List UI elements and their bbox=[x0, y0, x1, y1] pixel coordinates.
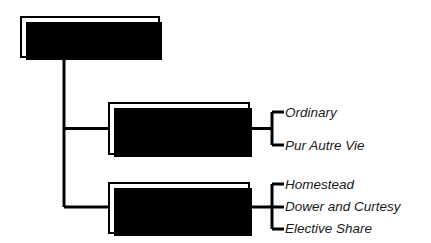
life-estates-hierarchy-diagram: Life Estates Conventional Legal Ordinary… bbox=[0, 0, 431, 243]
node-legal: Legal bbox=[108, 182, 250, 234]
node-conventional: Conventional bbox=[108, 102, 250, 155]
node-life-estates: Life Estates bbox=[20, 16, 160, 58]
leaf-label-ordinary: Ordinary bbox=[285, 106, 337, 120]
leaf-label-elective-share: Elective Share bbox=[285, 222, 372, 236]
node-conventional-label: Conventional bbox=[130, 120, 227, 137]
node-life-estates-label: Life Estates bbox=[47, 29, 134, 46]
node-legal-label: Legal bbox=[159, 200, 199, 217]
leaf-label-homestead: Homestead bbox=[285, 178, 354, 192]
leaf-label-pur-autre-vie: Pur Autre Vie bbox=[285, 139, 365, 153]
leaf-label-dower-and-curtesy: Dower and Curtesy bbox=[285, 200, 401, 214]
